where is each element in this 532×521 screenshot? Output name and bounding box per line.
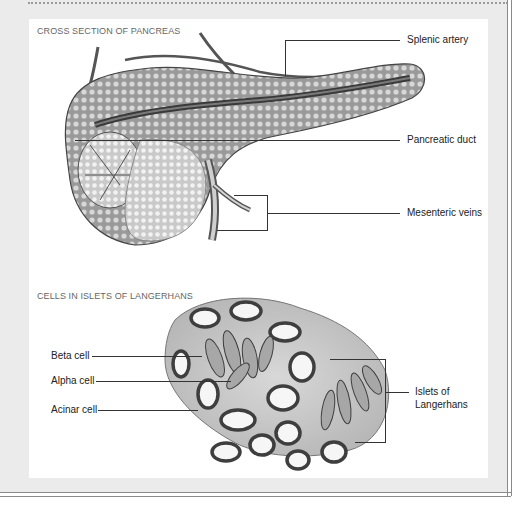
illustrations xyxy=(0,0,532,521)
label-splenic-artery: Splenic artery xyxy=(407,34,468,46)
label-alpha-cell: Alpha cell xyxy=(51,375,94,387)
label-acinar-cell: Acinar cell xyxy=(51,404,97,416)
label-islets-line2: Langerhans xyxy=(415,399,468,411)
mesenteric-bracket-bottom xyxy=(217,230,267,231)
beta-cell-leader xyxy=(92,356,202,357)
splenic-artery-leader xyxy=(285,40,400,41)
splenic-artery-leader-vertical xyxy=(285,40,286,76)
label-pancreatic-duct: Pancreatic duct xyxy=(407,134,476,146)
label-mesenteric-veins: Mesenteric veins xyxy=(407,207,482,219)
mesenteric-veins-leader xyxy=(267,213,400,214)
islets-bracket-vertical xyxy=(385,359,386,443)
mesenteric-bracket-top xyxy=(234,195,267,196)
label-beta-cell: Beta cell xyxy=(51,350,89,362)
section-title-islets: CELLS IN ISLETS OF LANGERHANS xyxy=(37,291,193,301)
islets-bracket-top xyxy=(330,359,385,360)
label-islets-line1: Islets of xyxy=(415,386,449,398)
pancreatic-duct-leader xyxy=(75,140,400,141)
acinar-cell-leader xyxy=(98,410,198,411)
alpha-cell-leader xyxy=(96,381,231,382)
section-title-cross-section: CROSS SECTION OF PANCREAS xyxy=(37,26,180,36)
islet-illustration xyxy=(165,298,389,469)
islets-bracket-bottom xyxy=(355,442,385,443)
islets-leader xyxy=(385,392,409,393)
